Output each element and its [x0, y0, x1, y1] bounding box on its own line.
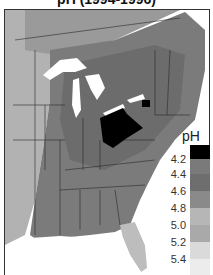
- legend-tick: 5.2: [160, 236, 186, 248]
- legend-title: pH: [182, 128, 200, 144]
- legend-swatch-4.2-4.4: [190, 159, 210, 174]
- legend-swatch-5.0-5.2: [190, 225, 210, 242]
- legend-swatch-4.4-4.6: [190, 174, 210, 191]
- legend-swatch-4.8-5.0: [190, 208, 210, 225]
- gulf-water: [5, 234, 141, 275]
- legend-tick: 4.4: [160, 168, 186, 180]
- legend-tick: 4.2: [160, 153, 186, 165]
- map-title: pH (1994-1996): [0, 0, 213, 7]
- ph-hotspot-ny: [142, 100, 150, 107]
- legend-swatch-5.2-5.4: [190, 242, 210, 259]
- legend-swatch-lt-4.2: [190, 145, 210, 159]
- legend-tick: 4.8: [160, 202, 186, 214]
- legend-swatch-gt-5.4: [190, 259, 210, 275]
- legend-tick: 5.4: [160, 253, 186, 265]
- legend-swatch-4.6-4.8: [190, 191, 210, 208]
- legend-tick: 4.6: [160, 185, 186, 197]
- legend-tick: 5.0: [160, 219, 186, 231]
